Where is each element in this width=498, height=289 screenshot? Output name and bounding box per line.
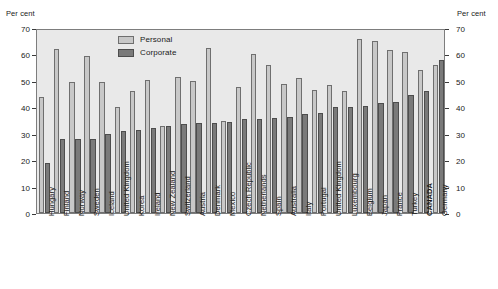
y-axis-tick-label: 30 bbox=[8, 130, 30, 139]
y-axis-tick-mark bbox=[32, 108, 36, 109]
y-axis-tick-mark bbox=[445, 82, 449, 83]
legend-item-corporate: Corporate bbox=[118, 47, 176, 58]
x-axis-label: New Zealand bbox=[168, 171, 177, 216]
x-axis-label: Sweden bbox=[92, 188, 101, 216]
y-axis-tick-mark bbox=[445, 161, 449, 162]
y-axis-tick-mark bbox=[445, 55, 449, 56]
bar-group bbox=[387, 30, 398, 213]
y-axis-tick-label: 40 bbox=[8, 104, 30, 113]
y-axis-tick-label: 40 bbox=[456, 104, 478, 113]
y-axis-tick-mark bbox=[32, 29, 36, 30]
y-axis-tick-mark bbox=[32, 188, 36, 189]
y-axis-tick-label: 0 bbox=[456, 210, 478, 219]
y-axis-tick-label: 10 bbox=[456, 183, 478, 192]
y-axis-tick-mark bbox=[445, 135, 449, 136]
bar-group bbox=[402, 30, 413, 213]
y-axis-unit-label-right: Per cent bbox=[457, 9, 486, 18]
y-axis-tick-label: 20 bbox=[456, 157, 478, 166]
x-axis-label: Netherlands bbox=[259, 174, 268, 216]
x-axis-labels: HungaryFinlandNorwaySwedenIcelandUnited … bbox=[36, 214, 445, 289]
y-axis-tick-mark bbox=[445, 29, 449, 30]
bar-personal bbox=[387, 50, 392, 213]
x-axis-label: CANADA bbox=[425, 183, 434, 216]
bar-corporate bbox=[302, 114, 307, 213]
y-axis-tick-label: 70 bbox=[8, 25, 30, 34]
plot-area bbox=[36, 29, 445, 214]
x-axis-label: Austria bbox=[198, 192, 207, 216]
y-axis-tick-mark bbox=[32, 161, 36, 162]
y-axis-tick-label: 30 bbox=[456, 130, 478, 139]
x-axis-label: Japan bbox=[380, 195, 389, 216]
y-axis-tick-label: 50 bbox=[456, 77, 478, 86]
x-axis-label: Germany bbox=[440, 184, 449, 216]
bar-group bbox=[296, 30, 307, 213]
bar-group bbox=[190, 30, 201, 213]
x-axis-label: Luxembourg bbox=[350, 173, 359, 216]
bar-group bbox=[69, 30, 80, 213]
y-axis-tick-mark bbox=[32, 135, 36, 136]
bar-group bbox=[312, 30, 323, 213]
bar-group bbox=[39, 30, 50, 213]
bar-personal bbox=[402, 52, 407, 213]
x-axis-label: Italy bbox=[304, 202, 313, 216]
legend-label-personal: Personal bbox=[140, 35, 172, 44]
bar-personal bbox=[281, 84, 286, 214]
x-axis-label: France bbox=[395, 192, 404, 216]
legend-item-personal: Personal bbox=[118, 34, 176, 45]
y-axis-tick-label: 60 bbox=[456, 51, 478, 60]
y-axis-tick-label: 50 bbox=[8, 77, 30, 86]
x-axis-label: Mexico bbox=[228, 192, 237, 216]
x-axis-label: Belgium bbox=[365, 188, 374, 216]
y-axis-tick-mark bbox=[32, 55, 36, 56]
x-axis-label: United Kingdom bbox=[334, 161, 343, 216]
x-axis-label: Ireland bbox=[153, 192, 162, 216]
legend-label-corporate: Corporate bbox=[140, 48, 176, 57]
y-axis-tick-mark bbox=[32, 82, 36, 83]
x-axis-label: Spain bbox=[274, 196, 283, 216]
x-axis-label: Norway bbox=[77, 190, 86, 216]
x-axis-label: Hungary bbox=[47, 187, 56, 216]
bar-chart: Per cent Per cent 010203040506070 010203… bbox=[0, 0, 498, 289]
y-axis-unit-label-left: Per cent bbox=[6, 9, 35, 18]
x-axis-label: Iceland bbox=[107, 191, 116, 216]
y-axis-tick-label: 0 bbox=[8, 210, 30, 219]
y-axis-tick-label: 20 bbox=[8, 157, 30, 166]
bar-personal bbox=[418, 70, 423, 213]
x-axis-label: United Kingdom bbox=[122, 161, 131, 216]
bar-personal bbox=[39, 97, 44, 213]
bar-group bbox=[99, 30, 110, 213]
legend-swatch-corporate bbox=[118, 49, 134, 57]
bar-personal bbox=[206, 48, 211, 213]
bar-personal bbox=[145, 80, 150, 213]
x-axis-label: Portugal bbox=[319, 187, 328, 216]
x-axis-label: Turkey bbox=[410, 193, 419, 216]
chart-legend: PersonalCorporate bbox=[118, 34, 176, 60]
bar-group bbox=[221, 30, 232, 213]
x-axis-label: Czech Republic bbox=[244, 162, 253, 216]
x-axis-label: Australia bbox=[289, 186, 298, 216]
bar-group bbox=[54, 30, 65, 213]
y-axis-tick-label: 10 bbox=[8, 183, 30, 192]
y-axis-tick-label: 70 bbox=[456, 25, 478, 34]
bar-personal bbox=[312, 90, 317, 213]
y-axis-tick-label: 60 bbox=[8, 51, 30, 60]
bar-group bbox=[84, 30, 95, 213]
bar-group bbox=[372, 30, 383, 213]
x-axis-label: Switzerland bbox=[183, 176, 192, 216]
legend-swatch-personal bbox=[118, 36, 134, 44]
x-axis-label: Korea bbox=[137, 195, 146, 216]
y-axis-tick-mark bbox=[445, 108, 449, 109]
x-axis-label: Finland bbox=[62, 191, 71, 216]
x-axis-label: Denmark bbox=[213, 185, 222, 216]
